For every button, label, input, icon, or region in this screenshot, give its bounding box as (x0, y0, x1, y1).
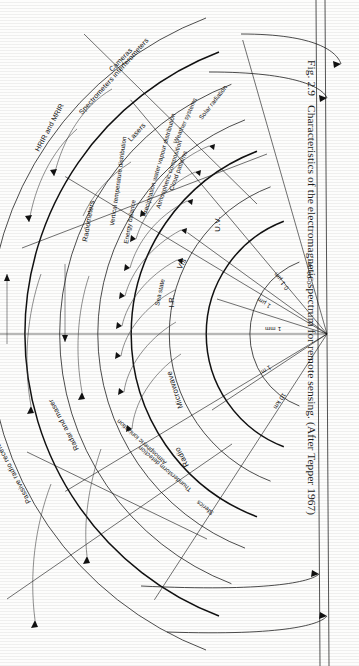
figure-caption-text: Characteristics of the electromagnetic s… (306, 105, 318, 515)
band-label-ir: I.R. (167, 294, 176, 307)
figure-page: U.V. Vis I.R. Microwave Radio 0·01 µm 0·… (0, 0, 359, 666)
figure-number: Fig. 2.9 (306, 60, 318, 96)
band-label-uv: U.V. (213, 216, 222, 231)
figure-caption: Fig. 2.9Characteristics of the electroma… (278, 60, 318, 620)
